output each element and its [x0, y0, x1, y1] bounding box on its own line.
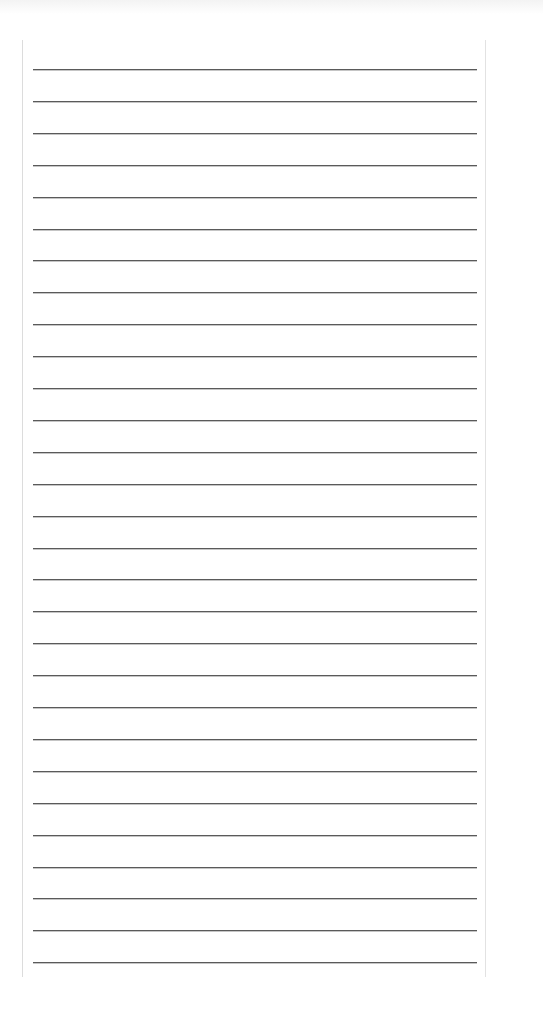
- ruled-line: [33, 197, 477, 198]
- ruled-line: [33, 898, 477, 899]
- ruled-line: [33, 548, 477, 549]
- ruled-line: [33, 835, 477, 836]
- ruled-line: [33, 771, 477, 772]
- ruled-line: [33, 452, 477, 453]
- ruled-line: [33, 516, 477, 517]
- ruled-line: [33, 643, 477, 644]
- ruled-line: [33, 611, 477, 612]
- ruled-line: [33, 484, 477, 485]
- scan-bleed-band: [0, 0, 543, 14]
- ruled-line: [33, 579, 477, 580]
- ruled-line: [33, 69, 477, 70]
- ruled-line: [33, 420, 477, 421]
- ruled-line: [33, 292, 477, 293]
- ruled-line: [33, 803, 477, 804]
- ruled-line: [33, 707, 477, 708]
- ruled-line: [33, 356, 477, 357]
- ruled-line: [33, 739, 477, 740]
- ruled-line: [33, 930, 477, 931]
- ruled-line: [33, 388, 477, 389]
- ruled-line: [33, 867, 477, 868]
- ruled-line: [33, 260, 477, 261]
- ruled-sheet: [22, 40, 486, 977]
- ruled-line: [33, 324, 477, 325]
- ruled-line: [33, 962, 477, 963]
- ruled-line: [33, 229, 477, 230]
- ruled-line: [33, 101, 477, 102]
- ruled-line: [33, 165, 477, 166]
- ruled-line: [33, 675, 477, 676]
- ruled-line: [33, 133, 477, 134]
